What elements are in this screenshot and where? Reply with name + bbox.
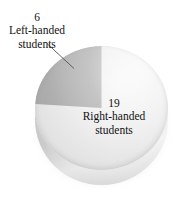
label-right-handed-line2: students (70, 124, 158, 137)
label-left-handed-line1: Left-handed (0, 24, 74, 37)
label-right-handed: 19 Right-handed students (70, 97, 158, 137)
label-right-handed-line1: Right-handed (70, 110, 158, 123)
label-left-handed-line2: students (0, 38, 74, 51)
label-left-handed-value: 6 (0, 11, 74, 24)
label-left-handed: 6 Left-handed students (0, 11, 74, 51)
label-right-handed-value: 19 (70, 97, 158, 110)
pie-chart-figure: 6 Left-handed students 19 Right-handed s… (0, 0, 181, 203)
